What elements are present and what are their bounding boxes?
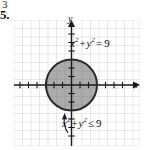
eq-value: 9 (103, 37, 111, 49)
eq-plus: + (78, 37, 86, 49)
boundary-equation-label: x2+y2=9 (70, 38, 111, 49)
ineq-value: 9 (95, 117, 103, 129)
figure-root: 3 5. (0, 0, 146, 150)
problem-number: 5. (0, 8, 9, 21)
y-axis-label: y (68, 14, 72, 24)
region-inequality-label: x2+y2≤9 (62, 118, 103, 129)
ineq-plus: + (70, 117, 78, 129)
x-axis-label: x (133, 80, 137, 90)
ineq-relation: ≤ (87, 117, 95, 129)
eq-relation: = (95, 37, 103, 49)
